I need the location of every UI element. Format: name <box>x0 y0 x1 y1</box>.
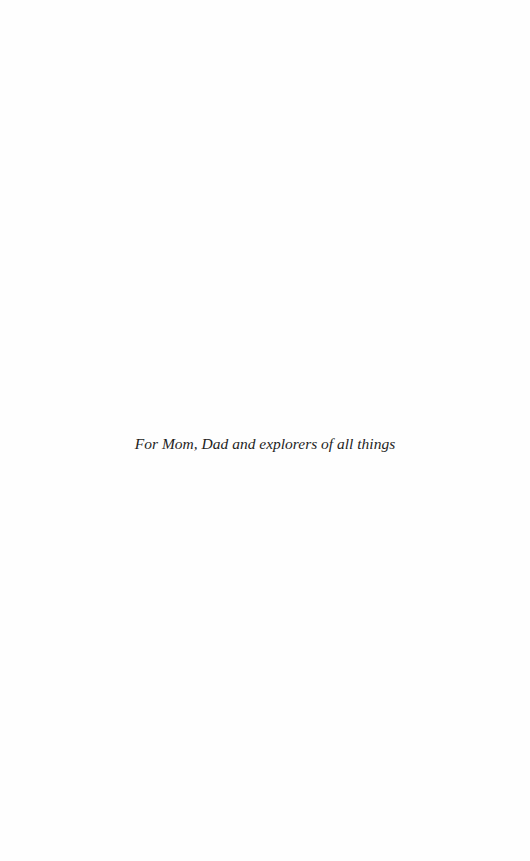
book-page: For Mom, Dad and explorers of all things <box>0 0 530 861</box>
dedication-text: For Mom, Dad and explorers of all things <box>0 434 530 454</box>
